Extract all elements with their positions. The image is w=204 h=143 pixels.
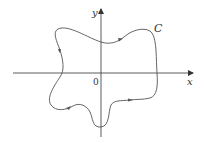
curve-c [49,28,157,127]
direction-arrow-icon [128,99,133,102]
diagram-canvas: y x 0 C [0,0,204,143]
direction-arrow-icon [66,106,71,110]
curve-label: C [154,22,163,35]
x-axis-label: x [187,76,193,87]
y-axis-label: y [91,7,98,18]
origin-label: 0 [93,77,99,87]
